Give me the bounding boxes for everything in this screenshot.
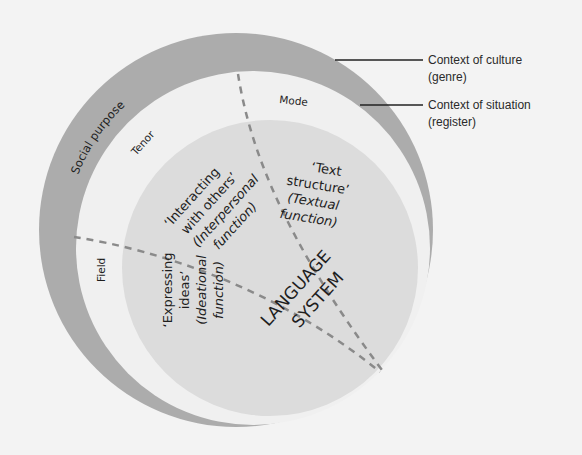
context-of-culture-callout: Context of culture (genre): [428, 52, 522, 86]
genre-label: (genre): [428, 69, 522, 86]
context-of-situation-label: Context of situation: [428, 97, 531, 114]
context-of-culture-label: Context of culture: [428, 52, 522, 69]
field-label: Field: [95, 258, 107, 282]
context-of-situation-callout: Context of situation (register): [428, 97, 531, 131]
svg-text:‘Expressing: ‘Expressing: [160, 253, 175, 328]
svg-text:ideas’: ideas’: [177, 271, 192, 310]
svg-text:function): function): [211, 261, 226, 319]
register-label: (register): [428, 114, 531, 131]
svg-text:(Ideational: (Ideational: [194, 255, 209, 325]
